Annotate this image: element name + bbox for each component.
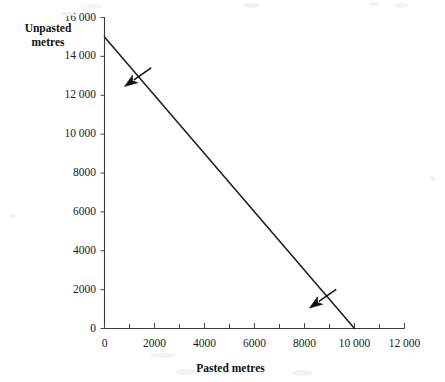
x-tick-label: 8000 <box>293 338 316 350</box>
x-tick-label: 6000 <box>243 338 266 350</box>
lower-arrow-head <box>310 297 323 308</box>
x-axis-ticks <box>105 323 405 329</box>
y-axis-ticks <box>101 18 105 329</box>
y-axis-title: Unpasted metres <box>12 22 84 49</box>
axes-group <box>105 17 405 329</box>
y-tick-label: 14 000 <box>26 51 96 63</box>
upper-arrow-head <box>125 75 138 86</box>
chart-figure: 0200040006000800010 00012 00014 00016 00… <box>0 0 445 382</box>
x-tick-label: 10 000 <box>339 338 371 350</box>
x-axis-title: Pasted metres <box>0 362 445 376</box>
y-tick-label: 0 <box>26 323 96 335</box>
x-tick-label: 4000 <box>193 338 216 350</box>
x-tick-label: 0 <box>102 338 108 350</box>
ppf-line <box>105 37 355 329</box>
series-group <box>105 37 355 329</box>
y-tick-label: 4000 <box>26 245 96 257</box>
y-tick-label: 6000 <box>26 206 96 218</box>
y-tick-label: 12 000 <box>26 90 96 102</box>
x-tick-label: 2000 <box>143 338 166 350</box>
annotation-group <box>125 68 336 308</box>
y-tick-label: 10 000 <box>26 128 96 140</box>
y-tick-label: 8000 <box>26 167 96 179</box>
upper-arrow <box>125 68 151 86</box>
y-tick-label: 2000 <box>26 284 96 296</box>
x-tick-label: 12 000 <box>389 338 421 350</box>
